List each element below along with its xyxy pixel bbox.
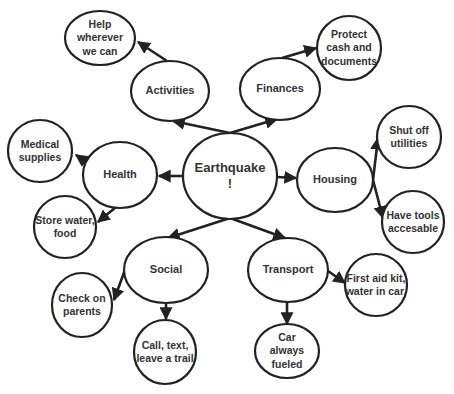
label-car: Car always fueled	[255, 324, 319, 378]
label-check: Check on parents	[52, 273, 112, 337]
edge-finances-protect	[282, 48, 316, 58]
edge-earthquake-finances	[230, 119, 277, 133]
label-transport: Transport	[248, 238, 328, 302]
edge-earthquake-housing	[277, 177, 296, 178]
edge-earthquake-activities	[173, 121, 230, 133]
edge-activities-help	[138, 42, 167, 61]
label-protect: Protect cash and documents	[315, 16, 383, 80]
label-shutoff: Shut off utilities	[377, 106, 441, 168]
label-activities: Activities	[131, 61, 209, 121]
edge-health-store	[98, 207, 116, 222]
label-earthquake: Earthquake !	[183, 133, 277, 219]
label-tools: Have tools accesable	[380, 191, 446, 253]
label-firstaid: First aid kit, water in car.	[342, 254, 410, 316]
label-social: Social	[124, 237, 208, 303]
label-medical: Medical supplies	[8, 120, 72, 182]
label-housing: Housing	[297, 148, 373, 212]
label-help: Help wherever we can	[65, 11, 135, 65]
edge-earthquake-transport	[230, 218, 285, 238]
label-call: Call, text, leave a trail	[131, 320, 199, 384]
label-store: Store water, food	[31, 196, 99, 258]
edge-earthquake-social	[168, 218, 230, 238]
label-finances: Finances	[240, 58, 320, 120]
